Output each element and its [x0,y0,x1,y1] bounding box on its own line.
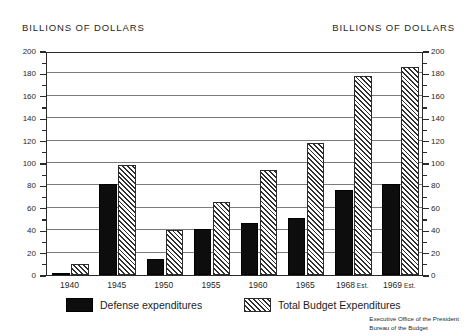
x-tick-label-1969: 1969 Est. [376,280,423,290]
bar-defense-1950 [147,259,165,275]
x-tick-label-1940: 1940 [46,280,93,290]
bar-defense-1968 [335,190,353,275]
y-tick-label-left-160: 160 [14,92,36,101]
bar-total-budget-1955 [213,202,231,275]
y-tick-label-right-60: 60 [431,204,440,213]
x-tick-label-estimate-marker: Est. [402,282,416,289]
tick-mark [423,197,427,198]
y-tick-label-left-140: 140 [14,114,36,123]
tick-mark [423,242,427,243]
x-tick-label-year: 1955 [201,280,220,290]
tick-mark [423,152,427,153]
x-tick-label-1965: 1965 [282,280,329,290]
y-tick-label-left-20: 20 [14,249,36,258]
x-tick-label-year: 1968 [336,280,355,290]
x-tick-label-estimate-marker: Est. [355,282,369,289]
x-tick-label-year: 1969 [383,280,402,290]
tick-mark [423,163,429,164]
tick-mark [423,264,427,265]
gridline-180 [47,72,422,73]
y-tick-label-left-100: 100 [14,159,36,168]
legend-item-total-budget: Total Budget Expenditures [244,298,401,312]
left-axis-title: BILLIONS OF DOLLARS [22,22,145,33]
tick-mark [423,275,429,276]
y-tick-label-left-200: 200 [14,47,36,56]
tick-mark [423,231,429,232]
tick-mark [423,63,427,64]
x-tick-label-year: 1950 [154,280,173,290]
bar-total-budget-1940 [71,264,89,275]
tick-mark [423,51,429,52]
y-tick-label-right-0: 0 [431,271,435,280]
x-tick-label-1968: 1968 Est. [329,280,376,290]
bar-defense-1960 [241,223,259,275]
tick-mark [423,219,427,220]
bar-total-budget-1968 [354,76,372,275]
y-tick-label-right-100: 100 [431,159,444,168]
y-tick-label-right-160: 160 [431,92,444,101]
x-tick-label-1955: 1955 [187,280,234,290]
y-tick-label-left-40: 40 [14,226,36,235]
tick-mark [423,175,427,176]
y-tick-label-right-40: 40 [431,226,440,235]
x-tick-label-1960: 1960 [235,280,282,290]
bar-total-budget-1965 [307,143,325,275]
x-tick-label-year: 1965 [296,280,315,290]
bar-defense-1940 [52,273,70,275]
tick-mark [423,107,427,108]
y-tick-label-left-0: 0 [14,271,36,280]
plot-area [46,52,423,276]
bar-total-budget-1969 [401,67,419,275]
y-tick-label-right-120: 120 [431,137,444,146]
y-tick-label-left-60: 60 [14,204,36,213]
y-tick-label-right-20: 20 [431,249,440,258]
y-tick-label-right-140: 140 [431,114,444,123]
tick-mark [423,208,429,209]
tick-mark [423,96,429,97]
tick-mark [423,119,429,120]
bar-defense-1969 [382,184,400,275]
tick-mark [423,74,429,75]
tick-mark [423,85,427,86]
x-tick-label-year: 1940 [60,280,79,290]
bar-total-budget-1960 [260,170,278,275]
source-line-2: Bureau of the Budget [369,323,459,332]
right-axis-title: BILLIONS OF DOLLARS [332,22,455,33]
tick-mark [423,186,429,187]
bar-defense-1945 [99,184,117,275]
x-tick-label-1945: 1945 [93,280,140,290]
legend-swatch-defense [66,298,93,312]
x-tick-label-year: 1960 [249,280,268,290]
source-attribution: Executive Office of the President Bureau… [369,314,459,333]
bar-defense-1955 [194,229,212,275]
legend-swatch-total-budget [244,298,271,312]
y-tick-label-right-200: 200 [431,47,444,56]
bar-total-budget-1950 [166,230,184,275]
x-tick-label-1950: 1950 [140,280,187,290]
y-tick-label-right-180: 180 [431,69,444,78]
bar-total-budget-1945 [118,165,136,275]
x-tick-label-year: 1945 [107,280,126,290]
tick-mark [423,253,429,254]
legend-item-defense: Defense expenditures [66,298,202,312]
legend-label-total-budget: Total Budget Expenditures [278,299,401,311]
y-tick-label-left-180: 180 [14,69,36,78]
source-line-1: Executive Office of the President [369,314,459,323]
legend-label-defense: Defense expenditures [100,299,202,311]
bar-defense-1965 [288,218,306,275]
y-tick-label-left-80: 80 [14,181,36,190]
tick-mark [423,130,427,131]
y-tick-label-right-80: 80 [431,181,440,190]
tick-mark [423,141,429,142]
y-tick-label-left-120: 120 [14,137,36,146]
